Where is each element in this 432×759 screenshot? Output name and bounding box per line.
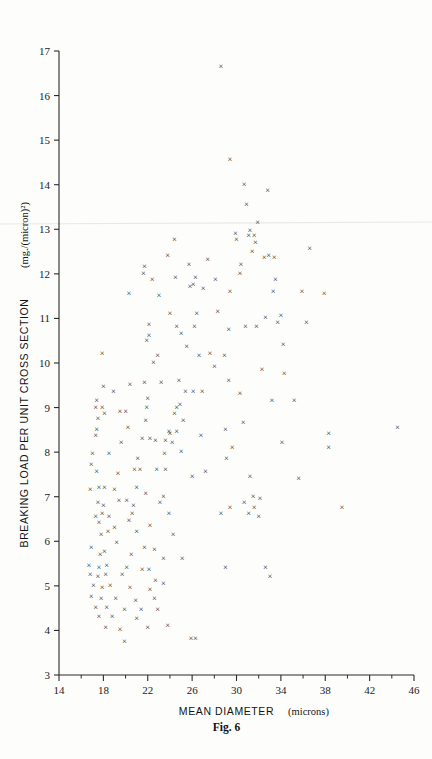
data-point: × [159, 377, 164, 387]
data-point: × [244, 199, 249, 209]
data-point: × [107, 511, 112, 521]
y-tick-label: 4 [45, 624, 51, 636]
x-tick-label: 26 [187, 684, 199, 696]
x-tick-label: 34 [275, 684, 287, 696]
data-point: × [143, 415, 148, 425]
data-point: × [154, 464, 159, 474]
data-point: × [134, 613, 139, 623]
figure-caption: Fig. 6 [213, 721, 241, 734]
data-point: × [213, 274, 218, 284]
data-point: × [99, 593, 104, 603]
y-tick-label: 16 [39, 90, 51, 102]
data-point: × [124, 562, 129, 572]
data-point: × [179, 446, 184, 456]
data-point: × [97, 611, 102, 621]
data-point: × [153, 575, 158, 585]
figure-container: 3456789101112131415161714182226303438424… [0, 0, 432, 759]
data-point: × [273, 274, 278, 284]
data-point: × [142, 377, 147, 387]
data-point: × [193, 633, 198, 643]
data-point: × [212, 361, 217, 371]
scan-artifact-line [0, 222, 432, 224]
data-point: × [103, 622, 108, 632]
y-tick-label: 10 [39, 357, 51, 369]
data-point: × [200, 386, 205, 396]
data-point: × [186, 259, 191, 269]
data-point: × [271, 286, 276, 296]
data-point: × [266, 250, 271, 260]
data-point: × [93, 402, 98, 412]
data-point: × [102, 482, 107, 492]
data-point: × [128, 582, 133, 592]
data-point: × [108, 580, 113, 590]
data-point: × [141, 268, 146, 278]
data-point: × [91, 580, 96, 590]
data-point: × [304, 317, 309, 327]
data-point: × [201, 283, 206, 293]
data-point: × [104, 602, 109, 612]
y-tick-label: 17 [39, 45, 51, 57]
data-point: × [171, 529, 176, 539]
data-point: × [307, 243, 312, 253]
data-point: × [88, 484, 93, 494]
data-point: × [215, 306, 220, 316]
data-point: × [278, 310, 283, 320]
data-point: × [224, 453, 229, 463]
data-point: × [172, 408, 177, 418]
data-point: × [183, 386, 188, 396]
data-point: × [126, 288, 131, 298]
y-tick-label: 7 [45, 491, 51, 503]
data-point: × [326, 442, 331, 452]
data-point: × [219, 508, 224, 518]
data-point: × [123, 406, 128, 416]
data-point: × [263, 312, 268, 322]
data-point: × [95, 497, 100, 507]
y-tick-label: 9 [45, 402, 51, 414]
data-point: × [192, 321, 197, 331]
data-point: × [120, 569, 125, 579]
data-point: × [150, 274, 155, 284]
data-point: × [103, 569, 108, 579]
data-point: × [112, 484, 117, 494]
y-tick-label: 11 [39, 312, 50, 324]
data-point: × [110, 611, 115, 621]
data-point: × [144, 402, 149, 412]
data-point: × [142, 542, 147, 552]
data-point: × [322, 288, 327, 298]
data-point: × [241, 417, 246, 427]
data-point: × [219, 61, 224, 71]
data-point: × [339, 502, 344, 512]
data-point: × [129, 549, 134, 559]
data-point: × [282, 368, 287, 378]
data-point: × [257, 493, 262, 503]
data-point: × [156, 290, 161, 300]
data-point: × [205, 254, 210, 264]
data-point: × [234, 234, 239, 244]
data-point: × [184, 341, 189, 351]
data-point: × [174, 426, 179, 436]
data-point: × [272, 252, 277, 262]
data-point: × [179, 328, 184, 338]
data-point: × [139, 604, 144, 614]
data-point: × [95, 413, 100, 423]
data-point: × [158, 497, 163, 507]
data-point: × [226, 375, 231, 385]
x-tick-label: 30 [231, 684, 243, 696]
data-point: × [280, 437, 285, 447]
data-point: × [95, 571, 100, 581]
data-point: × [102, 546, 107, 556]
x-tick-label: 18 [98, 684, 110, 696]
data-point: × [281, 339, 286, 349]
data-point: × [140, 564, 145, 574]
data-point: × [111, 386, 116, 396]
y-axis-units: (mg./(micron)²) [19, 202, 31, 268]
data-point: × [180, 553, 185, 563]
data-point: × [101, 381, 106, 391]
y-tick-label: 13 [39, 223, 51, 235]
data-point: × [146, 330, 151, 340]
data-point: × [138, 464, 143, 474]
data-point: × [153, 435, 158, 445]
data-point: × [223, 562, 228, 572]
data-point: × [199, 430, 204, 440]
data-point: × [97, 482, 102, 492]
